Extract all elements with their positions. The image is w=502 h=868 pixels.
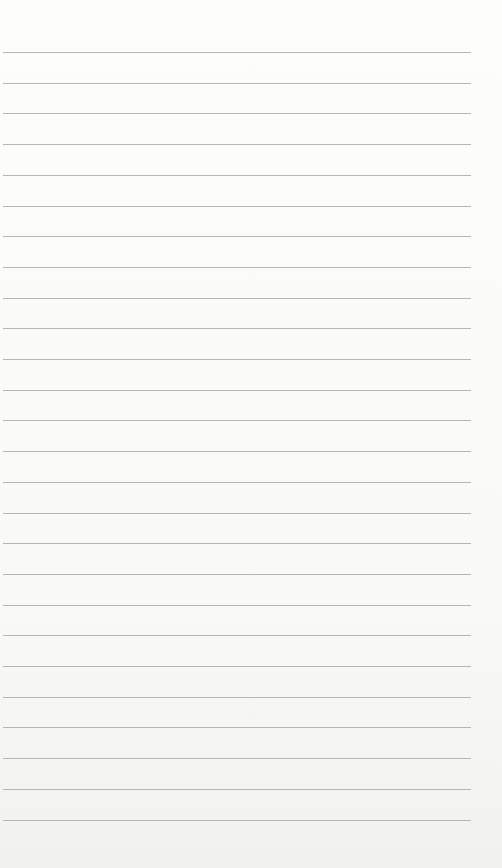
ruled-line	[3, 144, 471, 145]
ruled-line	[3, 298, 471, 299]
ruled-line	[3, 820, 471, 821]
ruled-line	[3, 113, 471, 114]
ruled-line	[3, 482, 471, 483]
ruled-line	[3, 727, 471, 728]
ruled-line	[3, 635, 471, 636]
ruled-line	[3, 206, 471, 207]
ruled-line	[3, 52, 471, 53]
ruled-line	[3, 175, 471, 176]
ruled-line	[3, 697, 471, 698]
ruled-line	[3, 574, 471, 575]
ruled-line	[3, 390, 471, 391]
ruled-line	[3, 267, 471, 268]
ruled-line	[3, 83, 471, 84]
ruled-line	[3, 328, 471, 329]
ruled-line	[3, 513, 471, 514]
ruled-line	[3, 605, 471, 606]
ruled-line	[3, 789, 471, 790]
ruled-line	[3, 420, 471, 421]
ruled-line	[3, 359, 471, 360]
ruled-paper-sheet	[0, 0, 502, 868]
ruled-line	[3, 451, 471, 452]
ruled-line	[3, 543, 471, 544]
ruled-line	[3, 236, 471, 237]
ruled-line	[3, 666, 471, 667]
ruled-line	[3, 758, 471, 759]
